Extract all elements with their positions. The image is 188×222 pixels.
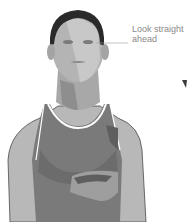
annotation-line-1: Look straight: [132, 24, 184, 34]
right-eye: [83, 40, 93, 44]
left-eye: [63, 40, 73, 44]
annotation-line-2: ahead: [132, 34, 184, 44]
annotation-label: Look straight ahead: [132, 24, 184, 44]
